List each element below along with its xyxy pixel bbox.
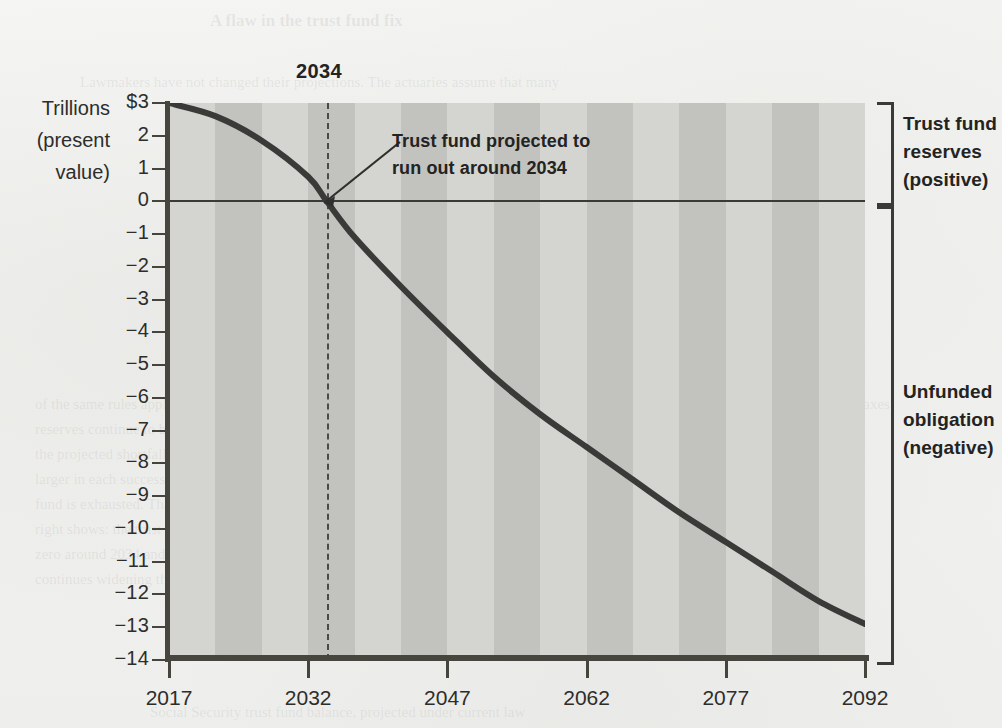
y-axis-tick-label: −9 [85, 483, 149, 506]
callout-text: Trust fund projected to run out around 2… [392, 128, 622, 182]
chart-figure: Trillions (present value) $3210−1−2−3−4−… [0, 0, 1002, 728]
y-axis-tick-label: −12 [85, 581, 149, 604]
y-axis-tick-label: 2 [85, 123, 149, 146]
y-axis-tick-label: −1 [85, 221, 149, 244]
y-axis-tick-label: −7 [85, 418, 149, 441]
y-axis-tick [152, 626, 166, 628]
y-axis-tick [152, 168, 166, 170]
y-axis-tick [152, 331, 166, 333]
y-axis-tick-label: −2 [85, 254, 149, 277]
positive-range-label: Trust fund reserves (positive) [903, 110, 1001, 194]
x-axis-tick-label: 2092 [805, 686, 925, 710]
x-axis-tick-label: 2032 [248, 686, 368, 710]
negative-label-line-2: obligation [903, 406, 1001, 434]
x-axis-tick [586, 661, 589, 678]
x-axis-tick [725, 661, 728, 678]
y-axis-tick [152, 528, 166, 530]
x-axis-tick [446, 661, 449, 678]
x-axis-tick [307, 661, 310, 678]
y-axis-tick-label: −13 [85, 614, 149, 637]
y-axis-tick [152, 299, 166, 301]
y-axis-tick-label: −5 [85, 352, 149, 375]
plot-area [169, 103, 865, 660]
negative-range-bracket [877, 206, 894, 665]
y-axis-tick-label: −6 [85, 385, 149, 408]
y-axis-tick [152, 397, 166, 399]
callout-text-line-1: Trust fund projected to [392, 128, 622, 155]
y-axis-tick-label: $3 [85, 90, 149, 113]
y-axis-tick-label: −11 [85, 549, 149, 572]
y-axis-tick-label: 1 [85, 156, 149, 179]
negative-label-line-1: Unfunded [903, 378, 1001, 406]
callout-text-line-2: run out around 2034 [392, 155, 622, 182]
y-axis-tick [152, 200, 166, 202]
y-axis-tick-label: −8 [85, 450, 149, 473]
y-axis-tick [152, 462, 166, 464]
y-axis-line [165, 101, 170, 662]
y-axis-tick-label: −14 [85, 647, 149, 670]
y-axis-tick-label: −10 [85, 516, 149, 539]
y-axis-tick-label: −4 [85, 319, 149, 342]
y-axis-tick [152, 135, 166, 137]
y-axis-tick [152, 561, 166, 563]
y-axis-tick [152, 659, 166, 661]
x-axis-tick-label: 2047 [387, 686, 507, 710]
x-axis-line [165, 655, 869, 661]
y-axis-tick [152, 593, 166, 595]
negative-range-label: Unfunded obligation (negative) [903, 378, 1001, 462]
positive-range-bracket [877, 102, 894, 206]
positive-label-line-1: Trust fund [903, 110, 1001, 138]
y-axis-tick [152, 364, 166, 366]
y-axis-tick [152, 266, 166, 268]
y-axis-tick [152, 233, 166, 235]
x-axis-tick [864, 661, 867, 678]
x-axis-tick-label: 2017 [109, 686, 229, 710]
crossing-year-label: 2034 [296, 60, 342, 83]
x-axis-tick-label: 2062 [527, 686, 647, 710]
positive-label-line-3: (positive) [903, 166, 1001, 194]
y-axis-tick [152, 495, 166, 497]
x-axis-tick [168, 661, 171, 678]
trust-fund-balance-line [169, 103, 865, 660]
y-axis-tick [152, 430, 166, 432]
x-axis-tick-label: 2077 [666, 686, 786, 710]
y-axis-tick-label: −3 [85, 287, 149, 310]
y-axis-tick-label: 0 [85, 188, 149, 211]
positive-label-line-2: reserves [903, 138, 1001, 166]
negative-label-line-3: (negative) [903, 434, 1001, 462]
y-axis-tick [152, 102, 166, 104]
